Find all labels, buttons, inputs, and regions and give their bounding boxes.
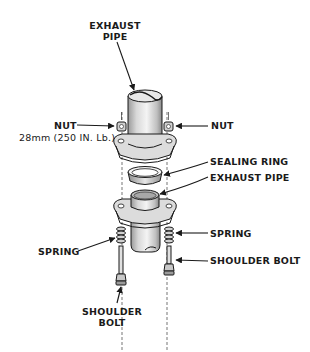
- spring-right-shape: [165, 227, 174, 243]
- nut-left-shape: [117, 112, 126, 131]
- exhaust-diagram: EXHAUST PIPE NUT 28mm (250 IN. Lb.) NUT …: [0, 0, 310, 352]
- label-spring-left: SPRING: [38, 246, 80, 257]
- label-exhaust-pipe-lower: EXHAUST PIPE: [210, 172, 290, 183]
- label-exhaust-pipe-top-line2: PIPE: [88, 31, 142, 42]
- label-sealing-ring: SEALING RING: [210, 156, 288, 167]
- label-exhaust-pipe-top-line1: EXHAUST: [88, 20, 142, 31]
- spring-left-shape: [117, 227, 126, 243]
- upper-flange: [114, 134, 177, 163]
- sealing-ring-shape: [128, 167, 162, 185]
- label-shoulder-bolt-right: SHOULDER BOLT: [210, 255, 301, 266]
- label-exhaust-pipe-top: EXHAUST PIPE: [88, 20, 142, 42]
- label-nut-right: NUT: [211, 120, 234, 131]
- label-shoulder-bolt-bottom-line2: BOLT: [82, 317, 142, 328]
- label-spring-right: SPRING: [210, 228, 252, 239]
- shoulder-bolt-right-shape: [164, 246, 174, 275]
- label-shoulder-bolt-bottom-line1: SHOULDER: [82, 306, 142, 317]
- label-nut-left: NUT: [54, 120, 77, 131]
- nut-right-shape: [164, 112, 173, 131]
- shoulder-bolt-left-shape: [116, 246, 126, 285]
- label-nut-torque: 28mm (250 IN. Lb.): [19, 132, 115, 143]
- label-shoulder-bolt-bottom: SHOULDER BOLT: [82, 306, 142, 328]
